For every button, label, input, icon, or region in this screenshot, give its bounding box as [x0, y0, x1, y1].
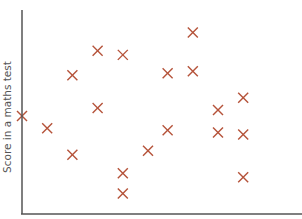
data-point-x-marker [188, 66, 198, 76]
data-point-x-marker [238, 93, 248, 103]
data-point-x-marker [42, 123, 52, 133]
data-point-x-marker [188, 27, 198, 37]
data-markers [17, 27, 248, 198]
data-point-x-marker [213, 127, 223, 137]
data-point-x-marker [238, 172, 248, 182]
data-point-x-marker [163, 125, 173, 135]
data-point-x-marker [67, 150, 77, 160]
data-point-x-marker [213, 105, 223, 115]
data-point-x-marker [238, 129, 248, 139]
scatter-chart [0, 0, 302, 219]
data-point-x-marker [163, 68, 173, 78]
data-point-x-marker [143, 146, 153, 156]
data-point-x-marker [118, 50, 128, 60]
data-point-x-marker [118, 189, 128, 199]
y-axis-label: Score in a maths test [1, 57, 15, 177]
data-point-x-marker [118, 168, 128, 178]
data-point-x-marker [93, 46, 103, 56]
data-point-x-marker [93, 103, 103, 113]
data-point-x-marker [67, 70, 77, 80]
